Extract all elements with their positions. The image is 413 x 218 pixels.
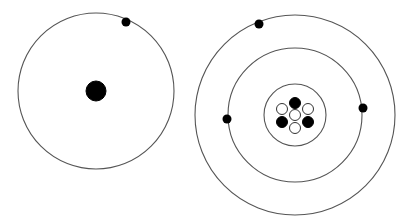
electron-dot [223, 115, 232, 124]
neutron-particle [303, 104, 314, 115]
neutron-particle [277, 104, 288, 115]
diagram-canvas [0, 0, 413, 218]
neutron-particle [290, 110, 301, 121]
atom-2 [195, 15, 395, 215]
proton-particle [86, 81, 106, 101]
electron-dot [255, 20, 264, 29]
electron-dot [122, 18, 131, 27]
neutron-particle [290, 123, 301, 134]
proton-particle [277, 117, 288, 128]
proton-particle [303, 117, 314, 128]
atom-diagram [0, 0, 413, 218]
electron-dot [359, 104, 368, 113]
atom-1 [18, 13, 174, 169]
proton-particle [290, 98, 301, 109]
